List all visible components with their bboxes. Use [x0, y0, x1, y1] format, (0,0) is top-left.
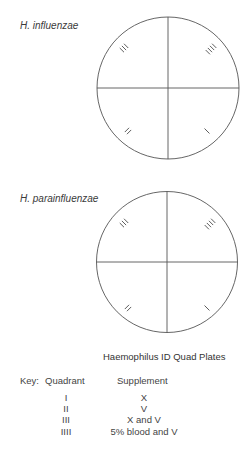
mark-top-left-III	[120, 219, 128, 227]
mark-bottom-right-I	[205, 306, 210, 311]
key-header-quadrant: Quadrant	[45, 375, 85, 386]
key-row-quadrant: IIII	[61, 426, 72, 437]
plate-2	[97, 192, 238, 333]
mark-top-right-IIII	[206, 44, 217, 55]
plate-1	[97, 17, 239, 159]
key-row-supplement: 5% blood and V	[110, 426, 177, 437]
key-row-quadrant: II	[63, 403, 68, 414]
plate-title-h-parainfluenzae: H. parainfluenzae	[20, 193, 98, 204]
key-row-quadrant: III	[62, 414, 70, 425]
mark-top-right-IIII	[205, 219, 216, 230]
figure-caption: Haemophilus ID Quad Plates	[103, 351, 226, 362]
key-row-supplement: X	[141, 392, 147, 403]
key-header-supplement: Supplement	[117, 375, 168, 386]
mark-bottom-right-I	[205, 129, 210, 134]
key-label: Key:	[20, 375, 39, 386]
mark-top-left-III	[120, 44, 128, 52]
key-row-supplement: X and V	[127, 414, 161, 425]
key-row-quadrant: I	[65, 392, 68, 403]
mark-bottom-left-II	[125, 128, 131, 134]
mark-bottom-left-II	[125, 305, 131, 311]
key-row-supplement: V	[141, 403, 147, 414]
